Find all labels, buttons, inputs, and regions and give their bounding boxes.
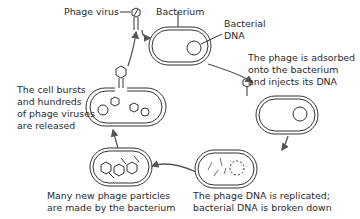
arrow-1 [142,30,150,38]
bacterial-dna-label-2: DNA [224,30,245,42]
phage-virus-icon [120,8,140,30]
step4-text-2: and hundreds [17,96,82,108]
step2-text-2: bacterial DNA is broken down [193,202,332,214]
step1-text-3: and injects its DNA [248,76,337,88]
step1-text-1: The phage is adsorbed [248,52,355,64]
step4-text-3: of phage viruses [17,108,95,120]
arrow-5 [113,130,118,148]
step1-text-2: onto the bacterium [248,64,338,76]
bacterium-cell-4 [90,148,152,186]
bacterium-label: Bacterium [156,6,204,18]
step4-text-1: The cell bursts [17,84,86,96]
step2-text-1: The phage DNA is replicated; [193,190,330,202]
bacterial-dna-label-1: Bacterial [224,18,266,30]
step3-text-2: are made by the bacterium [47,202,175,214]
phage-virus-label: Phage virus [64,6,119,18]
arrow-6 [128,32,136,66]
arrow-4 [152,164,196,172]
step3-text-1: Many new phage particles [47,190,170,202]
bacterium-cell-3 [195,150,257,188]
arrow-3 [282,136,288,150]
lytic-cycle-diagram: Phage virus Bacterium Bacterial DNA The … [0,0,360,219]
bacterium-cell-5 [86,66,166,126]
bacterium-cell-1 [149,12,222,65]
step4-text-4: are released [17,120,75,132]
